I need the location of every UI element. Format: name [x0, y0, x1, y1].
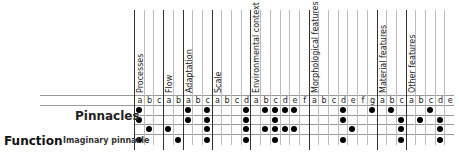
column-divider — [153, 10, 154, 145]
marker-dot — [243, 117, 249, 123]
column-divider — [289, 10, 290, 145]
group-header-morphological-features: Morphological features — [311, 1, 320, 93]
marker-dot — [437, 137, 443, 143]
marker-dot — [272, 107, 278, 113]
marker-dot — [204, 126, 210, 132]
marker-dot — [272, 117, 278, 123]
marker-dot — [388, 107, 394, 113]
group-header-other-features: Other features — [408, 35, 417, 93]
group-divider — [212, 10, 213, 150]
marker-dot — [437, 117, 443, 123]
marker-dot — [437, 126, 443, 132]
group-divider — [183, 10, 184, 150]
marker-dot — [291, 107, 297, 113]
marker-dot — [398, 126, 404, 132]
group-header-processes: Processes — [136, 54, 145, 93]
column-divider — [435, 10, 436, 145]
marker-dot — [340, 117, 346, 123]
marker-dot — [282, 107, 288, 113]
group-header-adaptation: Adaptation — [185, 49, 194, 93]
column-divider — [299, 10, 300, 145]
marker-dot — [185, 117, 191, 123]
column-divider — [357, 10, 358, 145]
marker-dot — [243, 137, 249, 143]
column-divider — [367, 10, 368, 145]
column-divider — [338, 10, 339, 145]
marker-dot — [262, 107, 268, 113]
marker-dot — [398, 137, 404, 143]
section-heading-function: Function — [4, 134, 62, 148]
column-divider — [280, 10, 281, 145]
group-header-material-features: Material features — [379, 25, 388, 93]
marker-dot — [398, 117, 404, 123]
marker-dot — [262, 126, 268, 132]
row-heading-pinnacles: Pinnacles — [75, 109, 140, 123]
row-divider — [40, 105, 454, 106]
marker-dot — [340, 107, 346, 113]
marker-dot — [204, 137, 210, 143]
marker-dot — [417, 117, 423, 123]
marker-dot — [243, 107, 249, 113]
column-divider — [396, 10, 397, 145]
column-divider — [328, 10, 329, 145]
marker-dot — [369, 107, 375, 113]
marker-dot — [175, 137, 181, 143]
column-divider — [347, 10, 348, 145]
marker-dot — [204, 117, 210, 123]
marker-dot — [272, 137, 278, 143]
marker-dot — [340, 137, 346, 143]
group-header-flow: Flow — [165, 75, 174, 93]
column-divider — [425, 10, 426, 145]
column-divider — [444, 10, 445, 145]
marker-dot — [282, 126, 288, 132]
marker-dot — [204, 107, 210, 113]
marker-dot — [185, 107, 191, 113]
column-divider — [241, 10, 242, 145]
group-header-scale: Scale — [214, 71, 223, 93]
marker-dot — [349, 126, 355, 132]
group-header-environmental-context: Environmental context — [252, 2, 261, 93]
column-divider — [231, 10, 232, 145]
marker-dot — [427, 107, 433, 113]
group-divider — [309, 10, 310, 150]
group-divider — [163, 10, 164, 150]
group-divider — [406, 10, 407, 150]
marker-dot — [165, 126, 171, 132]
marker-dot — [291, 126, 297, 132]
group-divider — [250, 10, 251, 150]
row-label-imaginary-pinnacle: Imaginary pinnacle — [63, 136, 149, 145]
feature-matrix: abcProcessesabFlowabcAdaptationabcdScale… — [0, 0, 459, 155]
group-divider — [134, 10, 135, 150]
group-divider — [377, 10, 378, 150]
column-divider — [270, 10, 271, 145]
marker-dot — [146, 126, 152, 132]
marker-dot — [272, 126, 278, 132]
marker-dot — [243, 126, 249, 132]
column-divider — [202, 10, 203, 145]
column-letter: e — [445, 96, 455, 105]
